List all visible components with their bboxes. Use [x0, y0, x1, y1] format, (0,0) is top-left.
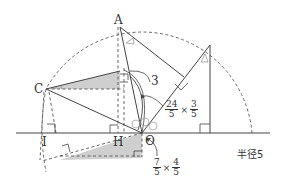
right-angle-mark-A — [175, 83, 188, 90]
segment-C-to-O — [46, 89, 142, 133]
arrow-to-label-3 — [142, 96, 163, 106]
angle-mark-3 — [149, 122, 157, 130]
point-label-C: C — [34, 83, 43, 95]
fraction-24-5: 24 5 — [165, 100, 178, 119]
side-length-label: 3 — [151, 75, 159, 87]
fraction-3-5: 3 5 — [190, 100, 198, 119]
segment-A-to-right — [120, 27, 184, 77]
times-symbol: × — [163, 163, 171, 173]
curve-label-3 — [130, 71, 150, 82]
lower-fraction-expression: 7 5 × 4 5 — [153, 158, 180, 177]
triangle-mark-A — [126, 38, 134, 44]
point-label-H: H — [113, 136, 123, 148]
times-symbol: × — [180, 105, 188, 115]
radius-label: 半径5 — [237, 146, 263, 161]
point-label-A: A — [114, 14, 123, 26]
point-label-I: I — [42, 136, 47, 148]
right-angle-mark-H — [110, 125, 118, 133]
angle-mark-1 — [132, 120, 140, 128]
point-label-O: O — [145, 135, 155, 147]
fraction-7-5: 7 5 — [153, 158, 161, 177]
right-angle-mark-I — [47, 124, 55, 133]
fraction-4-5: 4 5 — [172, 158, 180, 177]
angle-mark-2 — [141, 118, 149, 126]
upper-fraction-expression: 24 5 × 3 5 — [165, 100, 198, 119]
radius-arc-lower — [42, 89, 46, 172]
segment-A-to-O — [120, 27, 142, 133]
right-angle-mark-lower — [62, 144, 70, 152]
geometry-figure — [0, 0, 284, 193]
segment-O-to-top — [142, 45, 210, 133]
right-angle-mark-right — [200, 124, 210, 133]
